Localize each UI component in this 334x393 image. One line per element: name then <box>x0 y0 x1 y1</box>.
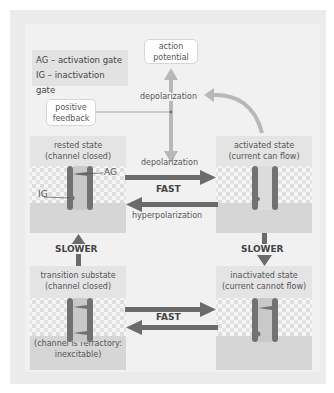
channel-pore <box>73 298 87 342</box>
channel-pore <box>258 298 272 342</box>
up-arrowhead-icon <box>164 68 178 80</box>
rested-channel <box>44 166 103 210</box>
depolarization-arrow-shaft <box>125 175 202 180</box>
slower-right-label: SLOWER <box>241 244 284 254</box>
transition-channel <box>67 298 93 342</box>
feedback-curve-arrow <box>213 95 262 133</box>
fast-top-label: FAST <box>156 184 181 194</box>
hyperpolarization-arrow-shaft <box>140 202 218 207</box>
right-arrowhead-icon <box>200 170 216 185</box>
slower-left-label: SLOWER <box>55 244 98 254</box>
ag-label: AG <box>104 167 117 177</box>
depolarization-top-label: depolarization <box>138 92 199 101</box>
ig-label: IG <box>38 189 48 199</box>
channel-wall-right <box>87 298 93 342</box>
inactivation-gate <box>256 197 260 201</box>
fast-left-arrow-shaft <box>140 325 218 330</box>
channel-wall-right <box>272 166 278 210</box>
fast-bottom-label: FAST <box>156 312 181 322</box>
left-arrowhead-icon <box>126 197 142 212</box>
channel-wall-left <box>252 166 258 210</box>
left-arrowhead-icon <box>126 320 142 335</box>
inactivation-gate <box>70 196 75 201</box>
channel-wall-left <box>67 298 73 342</box>
right-arrowhead-icon <box>200 302 216 317</box>
channel-pore <box>258 166 272 210</box>
channel-wall-right <box>272 298 278 342</box>
hyperpolarization-label: hyperpolarization <box>132 211 202 220</box>
channel-wall-right <box>87 166 93 210</box>
depolarization-label: depolarization <box>141 158 198 167</box>
feedback-dot <box>170 111 172 113</box>
inactivation-gate <box>256 332 261 337</box>
activated-channel <box>252 166 278 210</box>
down-arrowhead-icon <box>257 255 272 266</box>
inactivated-channel <box>252 298 278 342</box>
arrows-layer <box>0 0 334 393</box>
curve-arrowhead-icon <box>204 88 214 102</box>
channel-wall-left <box>67 166 73 210</box>
